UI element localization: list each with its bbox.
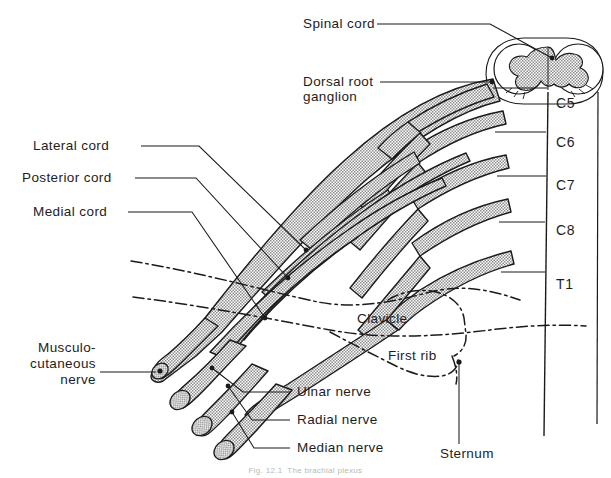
label-sternum: Sternum [440,446,494,462]
label-spinal-cord: Spinal cord [303,16,375,32]
label-posterior-cord: Posterior cord [22,170,112,186]
label-first-rib: First rib [388,348,437,364]
label-segment-c6: C6 [556,134,575,151]
label-segment-c7: C7 [556,177,575,194]
label-segment-t1: T1 [556,276,574,293]
label-ulnar-nerve: Ulnar nerve [297,384,371,400]
label-median-nerve: Median nerve [297,440,384,456]
label-musculocutaneous-line2: cutaneous [0,356,96,372]
spinal-cord-cross-section [486,38,603,104]
label-radial-nerve: Radial nerve [297,412,378,428]
label-segment-c8: C8 [556,222,575,239]
figure-caption: Fig. 12.1 The brachial plexus [0,466,611,478]
label-lateral-cord: Lateral cord [33,138,109,154]
label-clavicle: Clavicle [357,311,407,327]
label-dorsal-root-ganglion-line2: ganglion [303,89,357,105]
label-dorsal-root-ganglion-line1: Dorsal root [303,74,373,90]
label-musculocutaneous-line3: nerve [0,372,96,388]
label-musculocutaneous-line1: Musculo- [0,340,96,356]
label-medial-cord: Medial cord [33,204,107,220]
label-segment-c5: C5 [556,95,575,112]
brachial-plexus-figure [0,0,611,478]
